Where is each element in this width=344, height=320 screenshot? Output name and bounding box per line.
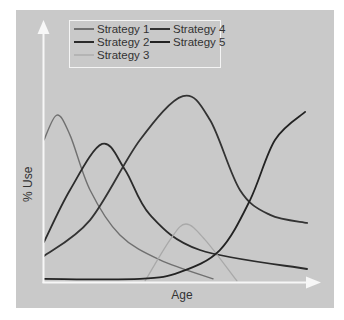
legend-item-strategy-5: Strategy 5 (150, 36, 225, 48)
series-line-strategy-2 (44, 144, 307, 269)
legend-item-strategy-4: Strategy 4 (150, 23, 225, 35)
legend-label: Strategy 3 (97, 49, 149, 61)
y-axis (38, 20, 50, 283)
x-axis (43, 277, 322, 289)
legend-item-strategy-1: Strategy 1 (74, 23, 149, 35)
legend-swatch (74, 41, 94, 43)
legend: Strategy 1 Strategy 2 Strategy 3 Strateg… (69, 20, 221, 68)
legend-swatch (74, 28, 94, 30)
legend-label: Strategy 4 (173, 23, 225, 35)
x-axis-label-text: Age (171, 288, 192, 302)
y-axis-label: % Use (21, 167, 35, 202)
x-axis-arrow-icon (306, 277, 321, 289)
x-axis-label: Age (0, 288, 344, 302)
legend-item-strategy-2: Strategy 2 (74, 36, 149, 48)
legend-label: Strategy 1 (97, 23, 149, 35)
legend-item-strategy-3: Strategy 3 (74, 49, 149, 61)
y-axis-arrow-icon (38, 20, 50, 34)
series-line-strategy-3 (145, 224, 237, 281)
legend-swatch (150, 28, 170, 30)
series-lines (44, 96, 307, 281)
legend-label: Strategy 2 (97, 36, 149, 48)
series-line-strategy-5 (44, 112, 305, 279)
legend-swatch (150, 41, 170, 43)
series-line-strategy-1 (44, 115, 213, 279)
legend-swatch (74, 54, 94, 56)
legend-label: Strategy 5 (173, 36, 225, 48)
